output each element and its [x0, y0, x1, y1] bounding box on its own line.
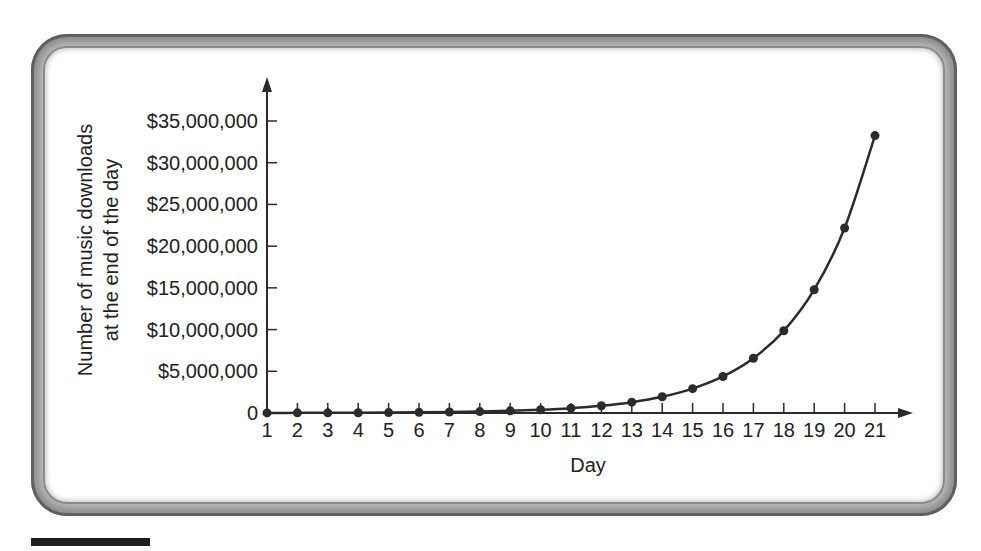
- x-tick-label: 17: [742, 419, 764, 441]
- x-tick-label: 16: [712, 419, 734, 441]
- x-tick-label: 11: [561, 419, 582, 441]
- data-point-marker: [871, 131, 880, 140]
- y-tick-label: $15,000,000: [147, 277, 258, 299]
- data-point-marker: [840, 224, 849, 233]
- y-tick-label: $35,000,000: [147, 110, 258, 132]
- y-axis-title: Number of music downloadsat the end of t…: [74, 124, 122, 376]
- data-point-marker: [627, 398, 636, 407]
- data-point-marker: [445, 408, 454, 417]
- y-tick-label: $25,000,000: [147, 193, 258, 215]
- data-point-marker: [384, 408, 393, 417]
- x-tick-label: 12: [590, 419, 612, 441]
- x-tick-label: 13: [621, 419, 643, 441]
- y-tick-label: 0: [247, 402, 258, 424]
- x-tick-label: 10: [529, 419, 551, 441]
- y-axis-arrow-icon: [262, 77, 272, 92]
- y-tick-label: $30,000,000: [147, 152, 258, 174]
- x-tick-label: 6: [413, 419, 424, 441]
- data-point-marker: [597, 401, 606, 410]
- line-chart: Number of music downloadsat the end of t…: [0, 0, 981, 551]
- x-tick-label: 4: [353, 419, 364, 441]
- x-tick-label: 3: [322, 419, 333, 441]
- x-tick-label: 14: [651, 419, 673, 441]
- x-tick-label: 8: [474, 419, 485, 441]
- data-point-marker: [536, 405, 545, 414]
- series-line: [267, 136, 875, 413]
- data-point-marker: [658, 392, 667, 401]
- data-point-marker: [293, 408, 302, 417]
- y-tick-label: $20,000,000: [147, 235, 258, 257]
- x-tick-label: 21: [864, 419, 886, 441]
- x-tick-label: 5: [383, 419, 394, 441]
- y-axis-ticks: 0$5,000,000$10,000,000$15,000,000$20,000…: [147, 110, 277, 424]
- x-tick-label: 9: [505, 419, 516, 441]
- x-axis-arrow-icon: [898, 408, 913, 418]
- x-axis-title: Day: [570, 454, 606, 476]
- data-point-marker: [779, 326, 788, 335]
- x-tick-label: 7: [444, 419, 455, 441]
- data-series: [263, 131, 880, 417]
- data-point-marker: [263, 408, 272, 417]
- data-point-marker: [475, 407, 484, 416]
- data-point-marker: [415, 408, 424, 417]
- x-tick-label: 1: [261, 419, 272, 441]
- y-axis-title-line: at the end of the day: [100, 159, 122, 341]
- x-tick-label: 19: [803, 419, 825, 441]
- data-point-marker: [810, 285, 819, 294]
- bottom-rule: [31, 538, 150, 546]
- x-tick-label: 20: [833, 419, 855, 441]
- data-point-marker: [354, 408, 363, 417]
- data-point-marker: [506, 406, 515, 415]
- x-tick-label: 2: [292, 419, 303, 441]
- axes: [262, 77, 913, 418]
- x-tick-label: 15: [681, 419, 703, 441]
- data-point-marker: [749, 354, 758, 363]
- data-point-marker: [323, 408, 332, 417]
- data-point-marker: [688, 384, 697, 393]
- data-point-marker: [719, 372, 728, 381]
- x-tick-label: 18: [773, 419, 795, 441]
- y-axis-title-line: Number of music downloads: [74, 124, 96, 376]
- y-tick-label: $10,000,000: [147, 319, 258, 341]
- data-point-marker: [567, 404, 576, 413]
- y-tick-label: $5,000,000: [158, 360, 258, 382]
